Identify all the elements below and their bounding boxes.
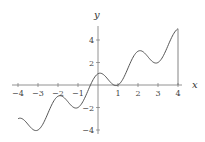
x-tick-label: −1: [72, 89, 84, 98]
y-tick-label: −4: [82, 126, 94, 135]
function-plot: −4−3−2−11234 −4−224 x y: [0, 0, 205, 142]
y-tick-label: 2: [89, 59, 94, 68]
x-axis-label: x: [192, 79, 198, 90]
y-axis-label: y: [93, 9, 100, 20]
x-tick-label: 2: [135, 89, 140, 98]
x-tick-label: 1: [115, 89, 120, 98]
y-ticks: −4−224: [82, 36, 100, 135]
x-tick-label: 4: [175, 89, 180, 98]
x-tick-label: −3: [32, 89, 44, 98]
y-tick-label: 4: [89, 36, 94, 45]
x-tick-label: −4: [12, 89, 24, 98]
x-tick-label: 3: [155, 89, 160, 98]
y-tick-label: −2: [82, 104, 94, 113]
